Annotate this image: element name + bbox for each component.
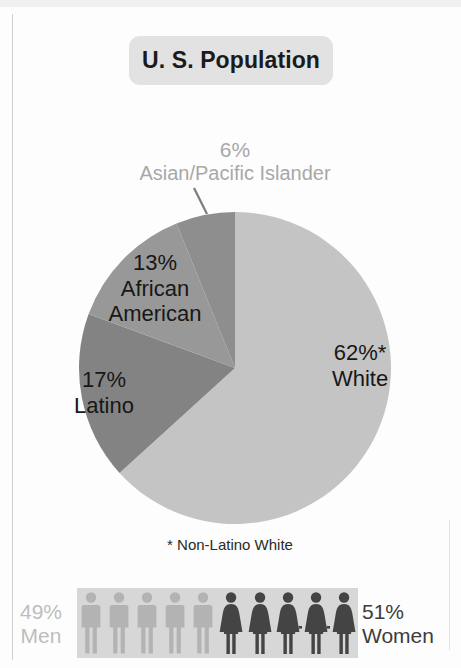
pie-label-asian-name: Asian/Pacific Islander xyxy=(60,162,410,185)
page-title: U. S. Population xyxy=(142,47,320,74)
page-top-edge xyxy=(0,0,461,7)
footnote: * Non-Latino White xyxy=(80,536,380,553)
pie-label-white: 62%* White xyxy=(312,340,408,391)
page-title-box: U. S. Population xyxy=(129,36,333,85)
pie-label-latino-name: Latino xyxy=(62,393,146,419)
pie-label-african-american-name-line2: American xyxy=(108,301,202,327)
infographic-page: U. S. Population 6% Asian/Pacific Island… xyxy=(0,0,461,668)
pie-label-african-american-percent: 13% xyxy=(108,250,202,276)
pie-label-asian-pacific-islander: 6% Asian/Pacific Islander xyxy=(60,138,410,185)
man-figure-icon xyxy=(105,588,133,658)
woman-figure-icon xyxy=(302,588,330,658)
woman-figure-icon xyxy=(246,588,274,658)
pie-label-asian-percent: 6% xyxy=(60,138,410,162)
pie-label-african-american-name-line1: African xyxy=(108,276,202,302)
pie-label-african-american: 13% African American xyxy=(108,250,202,327)
pie-label-latino: 17% Latino xyxy=(62,367,146,418)
women-label: 51% Women xyxy=(362,600,458,648)
gender-pictogram-row xyxy=(77,588,358,658)
women-name: Women xyxy=(362,624,458,648)
man-figure-icon xyxy=(161,588,189,658)
man-figure-icon xyxy=(133,588,161,658)
men-percent: 49% xyxy=(8,600,74,624)
men-name: Men xyxy=(8,624,74,648)
pie-label-white-percent: 62%* xyxy=(312,340,408,366)
woman-figure-icon xyxy=(217,588,245,658)
man-figure-icon xyxy=(189,588,217,658)
left-margin-rule xyxy=(12,14,13,660)
pie-label-white-name: White xyxy=(312,366,408,392)
pie-label-latino-percent: 17% xyxy=(62,367,146,393)
man-figure-icon xyxy=(77,588,105,658)
woman-figure-icon xyxy=(330,588,358,658)
women-percent: 51% xyxy=(362,600,458,624)
men-label: 49% Men xyxy=(8,600,74,648)
woman-figure-icon xyxy=(274,588,302,658)
